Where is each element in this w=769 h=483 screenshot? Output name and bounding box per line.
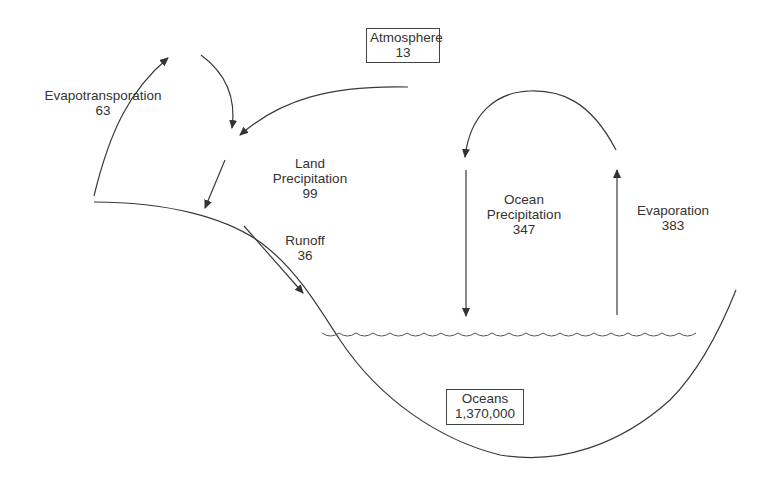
evapotranspiration-return-arrow	[201, 55, 233, 128]
evapotranspiration-label: Evapotransporation	[33, 88, 173, 103]
evaporation-label: Evaporation	[628, 203, 718, 218]
atmosphere-box: Atmosphere 13	[366, 28, 440, 63]
water-cycle-diagram	[0, 0, 769, 483]
runoff-label-group: Runoff 36	[280, 233, 330, 263]
ocean-precipitation-value: 347	[474, 222, 574, 237]
evaporation-label-group: Evaporation 383	[628, 203, 718, 233]
atmosphere-value: 13	[370, 45, 436, 60]
atmosphere-label: Atmosphere	[370, 30, 436, 45]
runoff-value: 36	[280, 248, 330, 263]
ocean-precipitation-label-line1: Ocean	[474, 192, 574, 207]
oceans-value: 1,370,000	[450, 406, 520, 421]
oceans-box: Oceans 1,370,000	[446, 389, 524, 425]
runoff-label: Runoff	[280, 233, 330, 248]
ocean-surface-waves	[322, 333, 696, 336]
ocean-precipitation-label-group: Ocean Precipitation 347	[474, 192, 574, 237]
land-precipitation-value: 99	[250, 186, 370, 201]
evapotranspiration-arrow	[94, 58, 168, 196]
ocean-precipitation-label-line2: Precipitation	[474, 207, 574, 222]
evapotranspiration-label-group: Evapotransporation 63	[33, 88, 173, 118]
oceans-label: Oceans	[450, 391, 520, 406]
land-precipitation-label-line1: Land	[250, 156, 370, 171]
evaporation-value: 383	[628, 218, 718, 233]
land-precipitation-arrow	[205, 160, 225, 208]
land-precipitation-label-group: Land Precipitation 99	[250, 156, 370, 201]
ocean-loop-arc	[465, 91, 616, 157]
land-surface-line	[94, 202, 736, 458]
land-precipitation-label-line2: Precipitation	[250, 171, 370, 186]
evapotranspiration-value: 63	[33, 103, 173, 118]
atmosphere-to-land-arrow	[240, 87, 408, 135]
